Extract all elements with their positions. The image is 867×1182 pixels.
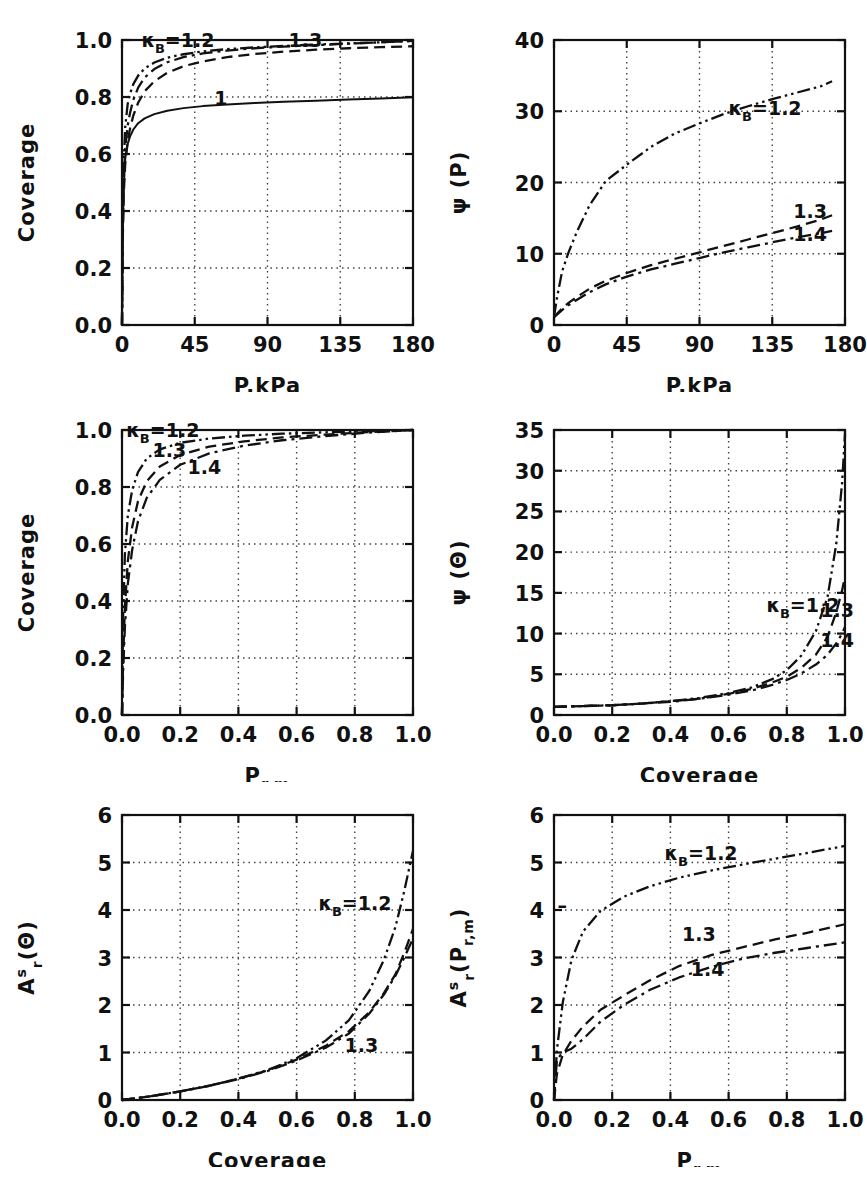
y-tick-label: 6 — [529, 804, 544, 828]
x-tick-label: 0.8 — [768, 723, 805, 747]
curve-annotations: κB=1.21.3 — [318, 892, 391, 1056]
gridlines — [554, 40, 845, 325]
x-tick-label: 0.2 — [594, 1108, 631, 1132]
gridlines — [122, 430, 413, 715]
curve-label: 1 — [214, 87, 227, 109]
y-axis-title: ψ (Θ) — [447, 539, 471, 605]
curve-label: 1.4 — [793, 223, 827, 245]
svg-text:ψ (P): ψ (P) — [447, 151, 471, 215]
y-tick-label: 1 — [529, 1042, 544, 1066]
curve-label: 1.4 — [691, 958, 725, 980]
curve-annotations: κB=1.21.31 — [141, 29, 322, 109]
panel-top-right: 04590135180010203040P,kPaψ (P)κB=1.21.31… — [432, 0, 867, 392]
curve-annotations: κB=1.21.31.4 — [729, 97, 827, 245]
y-tick-label: 0.6 — [75, 533, 112, 557]
y-tick-label: 35 — [515, 419, 544, 443]
x-tick-label: 1.0 — [826, 1108, 863, 1132]
series-line-__B_1.2 — [554, 434, 845, 707]
y-tick-label: 5 — [529, 663, 544, 687]
y-axis-title: Asr(Pr,m) — [445, 908, 477, 1008]
y-tick-label: 0.0 — [75, 314, 112, 338]
y-tick-label: 40 — [515, 29, 544, 53]
y-tick-label: 0.8 — [75, 86, 112, 110]
series-line-1.4 — [122, 430, 413, 715]
x-tick-label: 135 — [318, 333, 362, 357]
tick-labels: 0.00.20.40.60.81.005101520253035 — [515, 419, 864, 747]
panel-top-left: 045901351800.00.20.40.60.81.0P,kPaCovera… — [0, 0, 435, 392]
x-tick-label: 0.4 — [652, 1108, 689, 1132]
y-tick-label: 0 — [529, 1089, 544, 1113]
x-tick-label: 0.4 — [652, 723, 689, 747]
y-tick-label: 15 — [515, 582, 544, 606]
chart-arS-theta-vs-coverage: 0.00.20.40.60.81.00123456CoverageAsr(Θ)κ… — [0, 775, 435, 1167]
x-tick-label: 0.8 — [768, 1108, 805, 1132]
curve-label: 1.3 — [289, 29, 323, 51]
tick-labels: 045901351800.00.20.40.60.81.0 — [75, 29, 435, 357]
y-axis-title: ψ (P) — [447, 151, 471, 215]
curve-label: – — [557, 894, 567, 916]
x-tick-label: 0 — [115, 333, 130, 357]
x-tick-label: 0.6 — [710, 723, 747, 747]
y-tick-label: 1.0 — [75, 419, 112, 443]
ticks — [122, 815, 413, 1100]
y-tick-label: 0.6 — [75, 143, 112, 167]
x-tick-label: 180 — [823, 333, 867, 357]
y-tick-label: 4 — [529, 899, 544, 923]
panel-middle-right: 0.00.20.40.60.81.005101520253035Coverage… — [432, 390, 867, 782]
x-tick-label: 0.2 — [594, 723, 631, 747]
series-group — [554, 434, 845, 707]
y-tick-label: 30 — [515, 100, 544, 124]
curve-label: κB=1.2 — [141, 29, 214, 56]
series-line-1.4 — [554, 627, 845, 707]
y-tick-label: 0 — [529, 704, 544, 728]
y-tick-label: 0.2 — [75, 647, 112, 671]
series-line-1.4 — [554, 231, 832, 317]
y-tick-label: 5 — [529, 852, 544, 876]
x-tick-label: 180 — [391, 333, 435, 357]
ticks — [554, 430, 845, 715]
figure-root: 045901351800.00.20.40.60.81.0P,kPaCovera… — [0, 0, 867, 1182]
plot-frame — [122, 815, 413, 1100]
y-tick-label: 30 — [515, 460, 544, 484]
y-tick-label: 6 — [97, 804, 112, 828]
chart-arS-prm-vs-prm: 0.00.20.40.60.81.00123456Pr,mAsr(Pr,m)κB… — [432, 775, 867, 1167]
x-tick-label: 45 — [612, 333, 641, 357]
x-tick-label: 0.8 — [336, 723, 373, 747]
svg-text:Coverage: Coverage — [15, 123, 39, 243]
svg-text:ψ (Θ): ψ (Θ) — [447, 539, 471, 605]
y-tick-label: 5 — [97, 852, 112, 876]
series-line-1.3 — [122, 430, 413, 715]
x-tick-label: 0 — [547, 333, 562, 357]
y-tick-label: 4 — [97, 899, 112, 923]
series-line-__B_1.2 — [122, 851, 413, 1100]
chart-coverage-vs-pressure: 045901351800.00.20.40.60.81.0P,kPaCovera… — [0, 0, 435, 392]
y-tick-label: 2 — [529, 994, 544, 1018]
plot-frame — [122, 430, 413, 715]
gridlines — [122, 40, 413, 325]
gridlines — [122, 815, 413, 1100]
x-tick-label: 0.4 — [220, 723, 257, 747]
x-tick-label: 0.4 — [220, 1108, 257, 1132]
y-tick-label: 1.0 — [75, 29, 112, 53]
panel-bottom-right: 0.00.20.40.60.81.00123456Pr,mAsr(Pr,m)κB… — [432, 775, 867, 1167]
y-tick-label: 0.2 — [75, 257, 112, 281]
chart-psi-P-vs-pressure: 04590135180010203040P,kPaψ (P)κB=1.21.31… — [432, 0, 867, 392]
series-line-__B_1.2 — [122, 430, 413, 715]
curve-label: 1.3 — [153, 439, 187, 461]
x-tick-label: 1.0 — [826, 723, 863, 747]
chart-coverage-vs-prm: 0.00.20.40.60.81.00.00.20.40.60.81.0Pr,m… — [0, 390, 435, 782]
curve-label: 1.4 — [820, 629, 854, 651]
y-tick-label: 20 — [515, 541, 544, 565]
chart-psi-theta-vs-coverage: 0.00.20.40.60.81.005101520253035Coverage… — [432, 390, 867, 782]
x-tick-label: 135 — [750, 333, 794, 357]
curve-label: 1.3 — [820, 599, 854, 621]
x-tick-label: 0.6 — [710, 1108, 747, 1132]
svg-text:Coverage: Coverage — [15, 513, 39, 633]
y-axis-title: Asr(Θ) — [13, 920, 45, 995]
series-group — [122, 851, 413, 1100]
x-tick-label: 90 — [253, 333, 282, 357]
ticks — [122, 430, 413, 715]
x-tick-label: 1.0 — [394, 723, 431, 747]
svg-text:Asr(Pr,m): Asr(Pr,m) — [445, 908, 477, 1008]
y-tick-label: 10 — [515, 623, 544, 647]
